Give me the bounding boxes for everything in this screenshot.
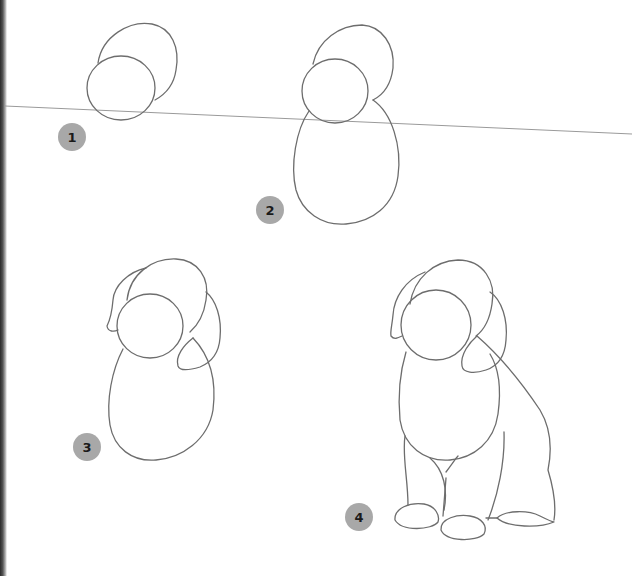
step-4-body-oval bbox=[399, 352, 499, 460]
step-2-muzzle-circle bbox=[302, 59, 368, 123]
step-4-front-left-paw bbox=[395, 504, 439, 529]
step-4-hind-paw bbox=[497, 512, 554, 526]
step-3-muzzle-circle bbox=[117, 294, 183, 358]
step-4-front-right-leg bbox=[446, 432, 504, 520]
step-4-sketch bbox=[391, 260, 555, 540]
step-1-sketch bbox=[87, 23, 177, 120]
tutorial-drawing: 1 2 3 4 bbox=[0, 0, 632, 576]
step-2-sketch bbox=[294, 25, 399, 224]
step-3-badge: 3 bbox=[73, 433, 101, 461]
step-4-badge: 4 bbox=[345, 503, 373, 531]
step-3-number: 3 bbox=[82, 440, 91, 455]
step-3-sketch bbox=[107, 259, 220, 460]
step-4-front-left-leg bbox=[404, 436, 445, 510]
step-2-skull-oval bbox=[313, 25, 393, 100]
step-4-front-right-paw bbox=[441, 516, 485, 540]
step-4-number: 4 bbox=[354, 510, 363, 525]
step-3-right-ear bbox=[177, 292, 220, 370]
step-4-right-ear bbox=[462, 292, 507, 372]
step-2-badge: 2 bbox=[256, 196, 284, 224]
step-4-back-line bbox=[477, 336, 555, 520]
guide-line bbox=[5, 106, 632, 134]
step-1-badge: 1 bbox=[58, 123, 86, 151]
step-1-number: 1 bbox=[67, 130, 76, 145]
step-4-muzzle-circle bbox=[401, 290, 471, 360]
step-2-number: 2 bbox=[265, 203, 274, 218]
step-1-muzzle-circle bbox=[87, 56, 155, 120]
step-1-skull-oval bbox=[98, 23, 177, 100]
step-2-body-oval bbox=[294, 100, 399, 224]
step-4-skull bbox=[410, 260, 493, 336]
